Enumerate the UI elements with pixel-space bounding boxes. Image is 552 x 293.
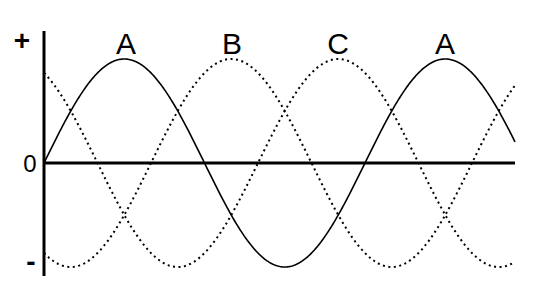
- axis-label-negative: -: [26, 246, 35, 277]
- phase-label-b: B: [222, 27, 242, 60]
- axis-label-positive: +: [14, 25, 30, 56]
- phase-label-a-repeat: A: [435, 27, 455, 60]
- axis-label-zero: 0: [23, 150, 36, 177]
- phase-label-c: C: [327, 27, 349, 60]
- three-phase-diagram: + 0 - A B C A: [0, 0, 552, 293]
- phase-label-a: A: [116, 27, 136, 60]
